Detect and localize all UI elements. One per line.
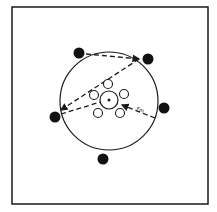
diagram-canvas: Fm (0, 0, 217, 212)
hub-center-dot (108, 99, 111, 102)
outer-point (98, 154, 109, 165)
inner-node (116, 109, 125, 118)
inner-node (120, 90, 129, 99)
outer-point (143, 54, 154, 65)
outer-point (159, 103, 170, 114)
inner-node (94, 109, 103, 118)
inner-node (90, 91, 99, 100)
fm-label: Fm (136, 105, 146, 114)
inner-node (104, 80, 113, 89)
outer-point (74, 48, 85, 59)
outer-point (50, 112, 61, 123)
